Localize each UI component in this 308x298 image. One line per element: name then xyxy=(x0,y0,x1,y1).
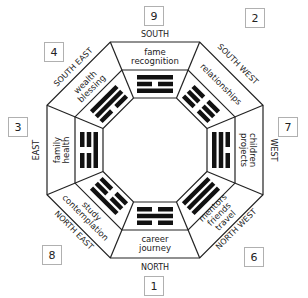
number-box-northeast: 8 xyxy=(42,245,62,265)
direction-north: NORTH xyxy=(141,263,169,272)
trigram-southwest xyxy=(182,85,220,123)
aspect-east-2: health xyxy=(61,137,71,164)
direction-east: EAST xyxy=(32,140,41,161)
number-box-northwest: 6 xyxy=(244,247,264,267)
number-box-north: 1 xyxy=(144,276,164,296)
trigram-north xyxy=(137,207,173,225)
outer-octagon xyxy=(47,42,263,258)
direction-west: WEST xyxy=(269,139,278,162)
number-box-west: 7 xyxy=(278,117,298,137)
number-box-southwest: 2 xyxy=(245,8,265,28)
number-box-southeast: 4 xyxy=(44,42,64,62)
trigram-east xyxy=(80,132,98,168)
direction-south: SOUTH xyxy=(141,30,169,39)
number-box-south: 9 xyxy=(144,6,164,26)
trigram-west xyxy=(212,132,230,168)
aspect-south-2: recognition xyxy=(131,56,179,66)
inner-octagon xyxy=(103,98,207,202)
aspect-north-2: journey xyxy=(138,243,171,253)
aspect-west-2: projects xyxy=(239,133,249,168)
trigram-south xyxy=(137,75,173,93)
number-box-east: 3 xyxy=(8,117,28,137)
